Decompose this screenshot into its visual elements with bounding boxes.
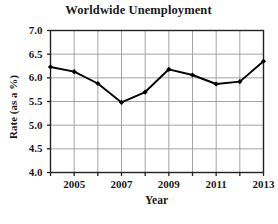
y-tick-label: 5.0 bbox=[13, 120, 43, 131]
tick-marks bbox=[47, 31, 264, 177]
y-tick-label: 6.0 bbox=[13, 72, 43, 83]
y-tick-label: 7.0 bbox=[13, 25, 43, 36]
y-tick-label: 4.0 bbox=[13, 167, 43, 178]
y-tick-label: 6.5 bbox=[13, 49, 43, 60]
unemployment-line-chart: Worldwide Unemployment Rate (as a %) Yea… bbox=[0, 0, 277, 224]
grid-lines bbox=[51, 31, 264, 173]
data-line bbox=[51, 61, 264, 102]
x-tick-label: 2013 bbox=[244, 179, 278, 190]
data-point-marker bbox=[214, 81, 219, 86]
x-tick-label: 2009 bbox=[149, 179, 189, 190]
y-tick-label: 5.5 bbox=[13, 96, 43, 107]
data-point-marker bbox=[190, 72, 195, 77]
x-tick-label: 2011 bbox=[196, 179, 236, 190]
x-tick-label: 2005 bbox=[54, 179, 94, 190]
x-tick-label: 2007 bbox=[102, 179, 142, 190]
y-tick-label: 4.5 bbox=[13, 143, 43, 154]
data-point-marker bbox=[48, 64, 53, 69]
